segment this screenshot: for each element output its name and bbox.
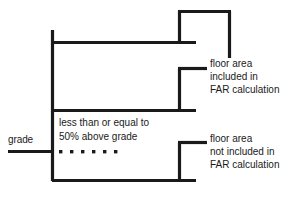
legend-not-included-line2: not included in [210, 145, 279, 158]
fifty-percent-dotted-line [59, 150, 117, 153]
legend-not-included-line1: floor area [210, 132, 279, 145]
far-grade-diagram: grade less than or equal to 50% above gr… [0, 0, 292, 198]
legend-floor-area-not-included: floor area not included in FAR calculati… [210, 132, 279, 171]
fifty-percent-note-line2: 50% above grade [59, 130, 149, 144]
legend-included-line3: FAR calculation [210, 83, 279, 96]
legend-included-line1: floor area [210, 57, 279, 70]
legend-not-included-line3: FAR calculation [210, 158, 279, 171]
grade-label: grade [8, 133, 33, 146]
legend-floor-area-included: floor area included in FAR calculation [210, 57, 279, 96]
fifty-percent-note-line1: less than or equal to [59, 116, 149, 130]
fifty-percent-note: less than or equal to 50% above grade [59, 116, 149, 144]
legend-included-line2: included in [210, 70, 279, 83]
